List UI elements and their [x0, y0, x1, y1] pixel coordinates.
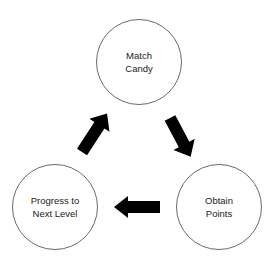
- node-match-candy: Match Candy: [96, 19, 182, 105]
- node-obtain-points: Obtain Points: [176, 164, 262, 250]
- arrow-left-icon: [114, 196, 160, 218]
- arrow-down-right-icon: [159, 112, 201, 162]
- node-label: Obtain Points: [205, 194, 233, 220]
- node-label: Match Candy: [125, 49, 152, 75]
- node-label: Progress to Next Level: [31, 194, 80, 220]
- arrow-up-right-icon: [72, 107, 117, 159]
- cycle-diagram: Match Candy Obtain Points Progress to Ne…: [0, 0, 274, 265]
- node-progress-next-level: Progress to Next Level: [12, 164, 98, 250]
